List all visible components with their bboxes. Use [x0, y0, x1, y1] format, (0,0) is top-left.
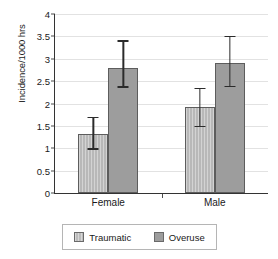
chart-figure: Incidence/1000 hrs 00.511.522.533.54 Fem… [0, 0, 278, 259]
error-bar-stem [93, 117, 94, 148]
y-tick-label: 2 [45, 98, 50, 109]
y-axis-title: Incidence/1000 hrs [16, 0, 27, 129]
y-tick-label: 1 [45, 143, 50, 154]
error-bar-cap-lower [194, 126, 205, 127]
error-bar-cap-upper [194, 88, 205, 89]
plot-area: 00.511.522.533.54 [55, 14, 268, 193]
error-bar-cap-upper [88, 117, 99, 118]
y-tick-label: 0.5 [37, 165, 50, 176]
legend-swatch-icon [154, 232, 164, 242]
legend-entry-traumatic: Traumatic [74, 232, 131, 243]
error-bar-cap-upper [118, 40, 129, 41]
error-bar-cap-upper [224, 36, 235, 37]
x-axis-label-female: Female [92, 197, 125, 208]
error-bar-stem [229, 36, 230, 86]
y-axis-line [54, 14, 55, 193]
y-tick-label: 3 [45, 53, 50, 64]
legend-entry-overuse: Overuse [154, 232, 205, 243]
x-axis-line [54, 193, 268, 194]
gridline [55, 36, 268, 37]
error-bar-cap-lower [88, 148, 99, 149]
chart-legend: TraumaticOveruse [62, 224, 217, 250]
y-tick-label: 2.5 [37, 76, 50, 87]
y-tick-label: 4 [45, 9, 50, 20]
y-tick-label: 1.5 [37, 120, 50, 131]
y-tick-label: 3.5 [37, 31, 50, 42]
error-bar-cap-lower [224, 86, 235, 87]
error-bar-stem [123, 40, 124, 86]
legend-swatch-icon [74, 232, 84, 242]
gridline [55, 14, 268, 15]
x-axis-label-male: Male [204, 197, 226, 208]
error-bar-cap-lower [118, 86, 129, 87]
error-bar-stem [199, 88, 200, 126]
y-tick-label: 0 [45, 188, 50, 199]
legend-label: Traumatic [89, 232, 131, 243]
gridline [55, 59, 268, 60]
legend-label: Overuse [169, 232, 205, 243]
